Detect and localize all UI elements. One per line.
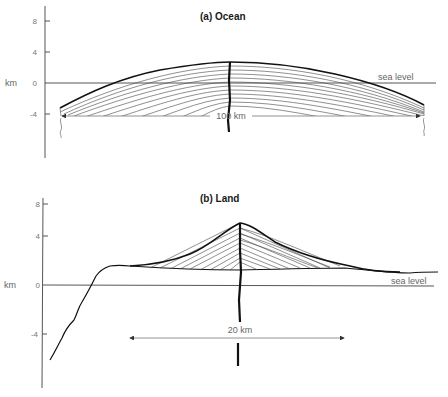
ocean-tick-label-4: 4: [33, 48, 38, 57]
ocean-unit-label: km: [5, 78, 17, 88]
ocean-right-wavy-edge: [423, 118, 424, 136]
land-cone-outline: [130, 223, 400, 272]
land-unit-label: km: [4, 280, 16, 290]
land-panel: (b) Land 8 4 0 -4 km sea level: [4, 193, 438, 388]
land-coastline: [50, 265, 130, 360]
ocean-tick-label-8: 8: [33, 17, 38, 26]
land-lava-layers: [150, 223, 340, 270]
land-tick-label-8: 8: [36, 200, 41, 209]
ocean-panel: (a) Ocean 8 4 0 -4 km sea level: [5, 6, 436, 158]
volcano-cross-section-diagram: (a) Ocean 8 4 0 -4 km sea level: [0, 0, 448, 397]
ocean-left-wavy-edge: [60, 118, 61, 138]
land-sea-level-line: [43, 285, 434, 286]
land-distance-label: 20 km: [228, 325, 253, 335]
land-feeder-dike-upper: [239, 223, 241, 322]
land-tick-label-0: 0: [36, 281, 41, 290]
ocean-dome-outline: [60, 62, 424, 108]
land-panel-title: (b) Land: [200, 193, 239, 204]
land-tick-label-minus4: -4: [31, 330, 39, 339]
ocean-sea-level-label: sea level: [378, 72, 414, 82]
ocean-left-edge: [60, 108, 61, 116]
ocean-tick-label-minus4: -4: [30, 110, 38, 119]
land-tick-label-4: 4: [36, 232, 41, 241]
ocean-feeder-dike: [228, 62, 230, 132]
ocean-distance-label: 100 km: [216, 111, 246, 121]
ocean-tick-label-0: 0: [33, 79, 38, 88]
land-y-axis: [42, 198, 43, 388]
land-sea-level-label: sea level: [391, 276, 427, 286]
ocean-panel-title: (a) Ocean: [200, 11, 246, 22]
